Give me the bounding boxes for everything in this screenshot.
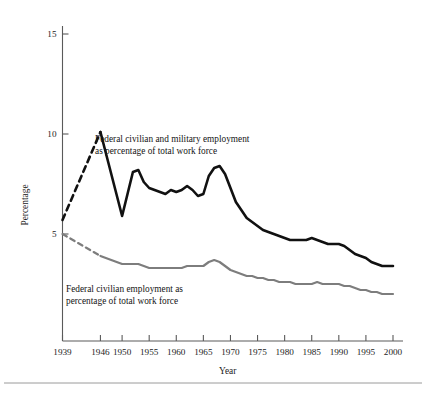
x-axis-title: Year [219,366,237,376]
axes-group: 1510519391946195019551960196519701975198… [20,26,403,376]
annotations-group: Federal civilian and military employment… [66,134,250,306]
x-tick-label: 1960 [167,347,186,357]
annotation-civilian-employment-line1: Federal civilian employment as [66,284,183,294]
annotation-total-employment-line2: as percentage of total work force [95,146,217,156]
x-tick-label: 2000 [384,347,403,357]
x-tick-label: 1939 [53,347,72,357]
x-tick-label: 1985 [303,347,322,357]
x-tick-label: 1946 [91,347,110,357]
y-tick-label: 10 [47,129,57,139]
line-chart: 1510519391946195019551960196519701975198… [0,0,426,396]
x-tick-label: 1990 [330,347,349,357]
y-axis-title: Percentage [20,184,30,225]
chart-figure: 1510519391946195019551960196519701975198… [0,0,426,396]
x-tick-label: 1965 [194,347,213,357]
x-tick-label: 1950 [113,347,132,357]
y-tick-label: 5 [52,229,57,239]
x-tick-label: 1975 [248,347,267,357]
y-tick-label: 15 [47,29,57,39]
x-tick-label: 1995 [357,347,376,357]
annotation-civilian-employment-line2: percentage of total work force [66,296,178,306]
x-tick-label: 1955 [140,347,159,357]
annotation-total-employment-line1: Federal civilian and military employment [95,134,250,144]
series-group [63,132,394,294]
x-tick-label: 1980 [275,347,294,357]
x-tick-label: 1970 [221,347,240,357]
civilian-employment-dashed-segment [63,234,101,256]
